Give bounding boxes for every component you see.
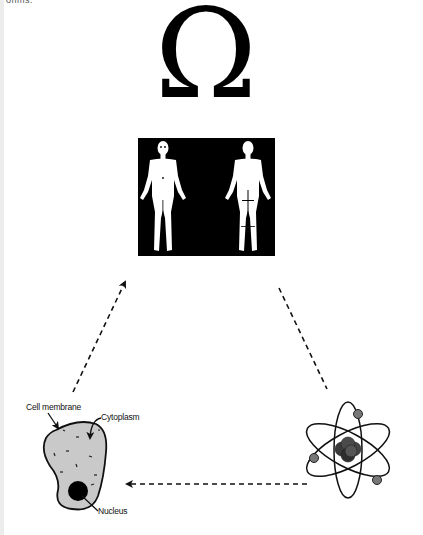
nucleus-label: Nucleus <box>98 506 127 516</box>
cell-icon <box>44 413 107 511</box>
cell-membrane-label: Cell membrane <box>26 402 81 412</box>
line-body-to-atom <box>279 288 327 389</box>
diagram-overlay <box>0 0 423 535</box>
electron <box>310 454 319 463</box>
electron <box>373 476 382 485</box>
arrow-cell-to-body <box>73 282 125 392</box>
membrane-pointer <box>48 413 58 428</box>
atom-nucleus <box>335 437 361 462</box>
electron <box>354 410 363 419</box>
cytoplasm-label: Cytoplasm <box>101 412 139 422</box>
atom-icon <box>299 402 396 498</box>
